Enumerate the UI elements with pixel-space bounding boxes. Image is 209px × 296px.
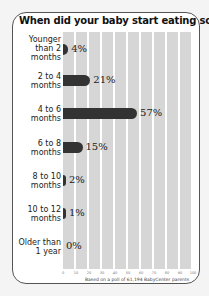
- value-label: 15%: [86, 141, 108, 152]
- value-label: 4%: [71, 43, 87, 54]
- x-tick-label: 70: [152, 271, 156, 275]
- category-label: 6 to 8months: [1, 139, 61, 157]
- x-tick-label: 50: [126, 271, 130, 275]
- category-label: Older than1 year: [1, 238, 61, 256]
- bar: [63, 108, 137, 119]
- category-label: Youngerthan 2months: [1, 35, 61, 62]
- category-label: 10 to 12months: [1, 205, 61, 223]
- chart-card: When did your baby start eating solids? …: [12, 12, 200, 284]
- category-label: 2 to 4months: [1, 72, 61, 90]
- bar: [63, 175, 66, 186]
- bar-row: 10 to 12months1%: [13, 201, 201, 231]
- bar-row: 2 to 4months21%: [13, 68, 201, 98]
- bar: [63, 75, 90, 86]
- bar-row: Older than1 year0%: [13, 234, 201, 264]
- value-label: 2%: [69, 174, 85, 185]
- value-label: 1%: [69, 207, 85, 218]
- x-tick-label: 40: [113, 271, 117, 275]
- bar-row: 6 to 8months15%: [13, 135, 201, 165]
- x-tick-label: 60: [139, 271, 143, 275]
- x-tick-label: 30: [100, 271, 104, 275]
- x-tick-label: 90: [178, 271, 182, 275]
- category-label: 4 to 6months: [1, 105, 61, 123]
- value-label: 0%: [66, 240, 82, 251]
- bar-row: Youngerthan 2months4%: [13, 35, 201, 65]
- value-label: 57%: [140, 107, 162, 118]
- x-tick-label: 80: [165, 271, 169, 275]
- x-tick-label: 100: [190, 271, 197, 275]
- bar: [63, 142, 83, 153]
- x-tick-label: 0: [62, 271, 64, 275]
- category-label: 8 to 10months: [1, 172, 61, 190]
- bar-row: 4 to 6months57%: [13, 101, 201, 131]
- bar: [63, 208, 66, 219]
- x-tick-label: 20: [87, 271, 91, 275]
- x-tick-label: 10: [74, 271, 78, 275]
- value-label: 21%: [93, 74, 115, 85]
- chart-footer: Based on a poll of 61,194 BabyCenter par…: [85, 277, 189, 282]
- bar-row: 8 to 10months2%: [13, 168, 201, 198]
- chart-title: When did your baby start eating solids?: [19, 15, 199, 26]
- bar: [63, 44, 68, 55]
